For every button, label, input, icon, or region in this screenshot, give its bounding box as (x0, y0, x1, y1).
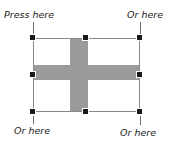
selected-image-object[interactable] (33, 38, 140, 112)
leader-line-bottom-left (33, 116, 34, 124)
handle-top-right[interactable] (136, 34, 143, 41)
callout-label-top-left: Press here (4, 9, 54, 20)
handle-bottom-middle[interactable] (82, 108, 89, 115)
handle-top-left[interactable] (29, 34, 36, 41)
leader-line-bottom-right (140, 116, 141, 125)
image-content (34, 39, 139, 111)
handle-middle-left[interactable] (29, 71, 36, 78)
callout-label-bottom-left: Or here (14, 125, 50, 136)
illustration-canvas: Press here Or here Or here Or here (0, 0, 170, 144)
cross-vertical-bar (70, 39, 87, 111)
callout-label-bottom-right: Or here (120, 127, 156, 138)
handle-bottom-left[interactable] (29, 108, 36, 115)
handle-middle-right[interactable] (136, 71, 143, 78)
handle-top-middle[interactable] (82, 34, 89, 41)
callout-label-top-right: Or here (127, 9, 163, 20)
handle-bottom-right[interactable] (136, 108, 143, 115)
